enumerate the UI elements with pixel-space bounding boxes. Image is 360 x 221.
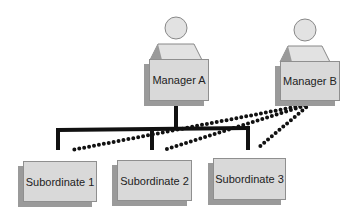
manager-a-box: Manager A: [149, 59, 209, 101]
manager-a-figure-icon: [150, 17, 202, 60]
subordinate-2-box: Subordinate 2: [117, 160, 192, 201]
manager-b-box: Manager B: [280, 61, 340, 101]
manager-a-label: Manager A: [152, 74, 205, 86]
subordinate-1-box: Subordinate 1: [23, 161, 97, 202]
subordinate-2-label: Subordinate 2: [120, 175, 189, 187]
subordinate-1-label: Subordinate 1: [26, 176, 95, 188]
manager-b-label: Manager B: [283, 75, 337, 87]
dotted-reporting-lines: [72, 104, 310, 150]
subordinate-3-box: Subordinate 3: [213, 158, 286, 200]
org-chart-diagram: Manager A Manager B Subordinate 1 Subord…: [0, 0, 360, 221]
subordinate-3-label: Subordinate 3: [215, 173, 284, 185]
manager-b-figure-icon: [280, 19, 330, 62]
solid-reporting-lines: [58, 106, 248, 150]
